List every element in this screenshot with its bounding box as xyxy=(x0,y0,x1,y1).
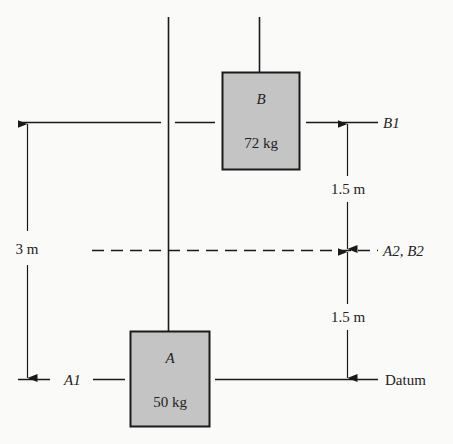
block-b: B 72 kg xyxy=(223,73,300,170)
block-a-name: A xyxy=(164,350,175,366)
level-b1-label: B1 xyxy=(383,115,400,131)
block-a-mass: 50 kg xyxy=(153,394,187,410)
level-datum-label: Datum xyxy=(385,372,426,388)
dimension-total-label: 3 m xyxy=(16,241,39,257)
energy-diagram: B1 A2, B2 A1 Datum B 72 kg A 50 kg 3 m 1… xyxy=(0,0,453,444)
block-b-mass: 72 kg xyxy=(244,135,278,151)
level-a1-label: A1 xyxy=(63,372,81,388)
level-a2b2-label: A2, B2 xyxy=(382,243,424,259)
block-b-name: B xyxy=(256,91,265,107)
block-a: A 50 kg xyxy=(131,332,210,427)
dimension-lower-label: 1.5 m xyxy=(331,309,366,325)
dimension-upper-label: 1.5 m xyxy=(331,181,366,197)
